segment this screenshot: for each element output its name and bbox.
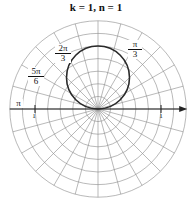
angle-label-pi-over-3: π 3 — [128, 40, 142, 59]
grid-spoke — [98, 109, 142, 185]
tick-label-left: 1 — [31, 112, 37, 121]
grid-spoke — [98, 109, 183, 132]
grid-spoke — [98, 109, 160, 171]
label-denominator: 3 — [128, 50, 142, 59]
polar-plot — [0, 0, 192, 204]
grid-spoke — [75, 109, 98, 194]
grid-spoke — [36, 109, 98, 171]
angle-label-pi: π — [14, 99, 23, 108]
grid-spoke — [98, 24, 121, 109]
angle-label-5pi-over-6: 5π 6 — [28, 67, 44, 86]
grid-spoke — [98, 65, 174, 109]
grid-spoke — [13, 109, 98, 132]
label-denominator: 3 — [55, 54, 71, 63]
tick-label-right: 1 — [158, 112, 164, 121]
label-denominator: 6 — [28, 77, 44, 86]
angle-label-2pi-over-3: 2π 3 — [55, 44, 71, 63]
grid-spoke — [75, 24, 98, 109]
grid-spoke — [98, 109, 121, 194]
grid-spoke — [54, 109, 98, 185]
